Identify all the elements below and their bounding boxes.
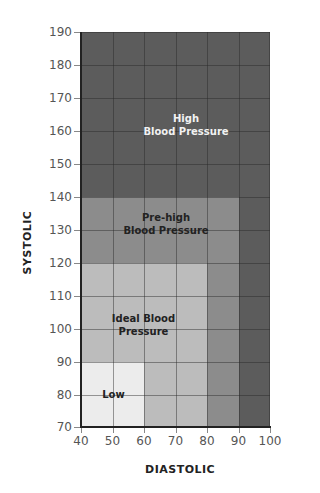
grid-line [81, 362, 270, 363]
x-tick-mark [113, 428, 114, 433]
x-tick-mark [81, 428, 82, 433]
grid-line [81, 98, 270, 99]
y-tick-mark [74, 98, 80, 99]
x-tick-mark [239, 428, 240, 433]
x-tick-label: 100 [255, 434, 285, 448]
zone-label-high: High Blood Pressure [121, 112, 251, 138]
y-tick-label: 120 [44, 257, 72, 269]
y-tick-label: 170 [44, 92, 72, 104]
label-line: Blood Pressure [111, 224, 221, 237]
y-tick-label: 190 [44, 26, 72, 38]
label-line: Ideal Blood [96, 312, 191, 325]
y-tick-label: 150 [44, 158, 72, 170]
x-tick-label: 90 [224, 434, 254, 448]
x-axis-label: DIASTOLIC [145, 463, 215, 476]
y-tick-mark [74, 329, 80, 330]
y-tick-mark [74, 296, 80, 297]
zone-label-prehigh: Pre-high Blood Pressure [111, 211, 221, 237]
y-axis [80, 32, 82, 428]
y-tick-mark [74, 362, 80, 363]
y-tick-label: 180 [44, 59, 72, 71]
y-tick-mark [74, 32, 80, 33]
zone-label-low: Low [91, 388, 136, 401]
label-line: Pressure [96, 325, 191, 338]
x-tick-label: 50 [98, 434, 128, 448]
x-tick-label: 60 [129, 434, 159, 448]
y-tick-mark [74, 395, 80, 396]
y-tick-label: 100 [44, 323, 72, 335]
y-tick-mark [74, 263, 80, 264]
x-tick-mark [144, 428, 145, 433]
y-tick-label: 140 [44, 191, 72, 203]
y-tick-label: 160 [44, 125, 72, 137]
label-line: Blood Pressure [121, 125, 251, 138]
y-tick-label: 70 [44, 421, 72, 433]
x-tick-label: 80 [192, 434, 222, 448]
zone-high-right [239, 197, 271, 427]
y-axis-label: SYSTOLIC [21, 211, 34, 275]
y-tick-label: 90 [44, 356, 72, 368]
x-tick-mark [176, 428, 177, 433]
label-line: High [121, 112, 251, 125]
grid-line [81, 65, 270, 66]
y-tick-label: 110 [44, 290, 72, 302]
y-tick-mark [74, 131, 80, 132]
zone-label-ideal: Ideal Blood Pressure [96, 312, 191, 338]
grid-line [81, 197, 270, 198]
grid-line [81, 263, 270, 264]
x-tick-mark [207, 428, 208, 433]
y-tick-mark [74, 230, 80, 231]
x-tick-label: 70 [161, 434, 191, 448]
label-line: Low [91, 388, 136, 401]
grid-line [81, 164, 270, 165]
y-tick-mark [74, 164, 80, 165]
label-line: Pre-high [111, 211, 221, 224]
plot-area: High Blood Pressure Pre-high Blood Press… [81, 32, 270, 427]
y-tick-mark [74, 197, 80, 198]
y-tick-mark [74, 65, 80, 66]
x-tick-mark [270, 428, 271, 433]
grid-line [81, 296, 270, 297]
y-tick-mark [74, 427, 80, 428]
zone-prehigh-right [207, 263, 239, 427]
y-tick-label: 80 [44, 389, 72, 401]
y-tick-label: 130 [44, 224, 72, 236]
grid-line [81, 32, 270, 33]
x-tick-label: 40 [66, 434, 96, 448]
